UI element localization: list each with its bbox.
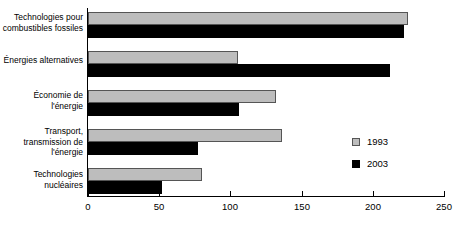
x-axis-tick-label-150: 150 — [282, 201, 322, 213]
legend-entry-2003: 2003 — [352, 156, 388, 172]
legend-label-2003: 2003 — [367, 159, 388, 169]
legend-entry-1993: 1993 — [352, 134, 388, 150]
legend-swatch-1993-icon — [352, 138, 360, 146]
bar-2003-technologies-combustibles-fossiles — [88, 25, 404, 38]
bar-2003-technologies-nucleaires — [88, 181, 162, 194]
legend-swatch-2003-icon — [352, 160, 360, 168]
x-axis-tick-label-0: 0 — [68, 201, 108, 213]
bar-chart: Technologies pour combustibles fossiles … — [0, 0, 476, 229]
plot-area — [88, 8, 444, 196]
x-axis-tick-250 — [444, 191, 445, 196]
bar-1993-energies-alternatives — [88, 51, 238, 64]
category-label-economie-energie: Économie de l'énergie — [0, 90, 83, 111]
x-axis-line — [87, 196, 445, 197]
x-axis-tick-label-200: 200 — [353, 201, 393, 213]
category-label-technologies-nucleaires: Technologies nucléaires — [0, 169, 83, 190]
bar-2003-economie-energie — [88, 103, 239, 116]
category-label-technologies-combustibles-fossiles: Technologies pour combustibles fossiles — [0, 12, 83, 33]
legend-label-1993: 1993 — [367, 137, 388, 147]
x-axis-tick-label-50: 50 — [139, 201, 179, 213]
bar-1993-technologies-nucleaires — [88, 168, 202, 181]
x-axis-tick-label-100: 100 — [210, 201, 250, 213]
bar-2003-transport-transmission-energie — [88, 142, 198, 155]
category-label-energies-alternatives: Énergies alternatives — [0, 55, 83, 66]
bar-2003-energies-alternatives — [88, 64, 390, 77]
x-axis-tick-label-250: 250 — [424, 201, 464, 213]
category-label-transport-transmission-energie: Transport, transmission de l'énergie — [0, 126, 83, 158]
bar-1993-transport-transmission-energie — [88, 129, 282, 142]
bar-1993-economie-energie — [88, 90, 276, 103]
bar-1993-technologies-combustibles-fossiles — [88, 12, 408, 25]
chart-legend: 1993 2003 — [352, 134, 388, 178]
